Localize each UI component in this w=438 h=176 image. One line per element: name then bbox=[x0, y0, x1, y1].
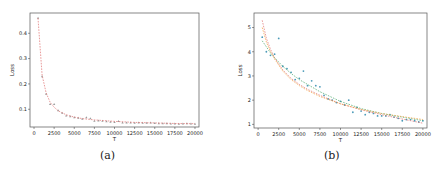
y-tick-label: 1 bbox=[248, 121, 251, 127]
chart-panel-a: 02500500075001000012500150001750020000T0… bbox=[9, 13, 203, 142]
y-axis-label: Loss bbox=[237, 64, 243, 76]
data-point bbox=[294, 79, 296, 81]
y-tick-label: 5 bbox=[248, 24, 251, 30]
plot-area bbox=[254, 13, 427, 128]
y-tick-label: 0.1 bbox=[19, 106, 27, 112]
data-point bbox=[303, 70, 305, 72]
data-point bbox=[348, 99, 350, 101]
x-tick-label: 10000 bbox=[107, 130, 123, 136]
x-tick-label: 2500 bbox=[48, 130, 61, 136]
x-tick-label: 17500 bbox=[167, 130, 183, 136]
y-tick-label: 0.3 bbox=[19, 55, 27, 61]
caption-a: (a) bbox=[100, 149, 115, 162]
data-point bbox=[278, 38, 280, 40]
x-tick-label: 20000 bbox=[415, 131, 431, 137]
y-tick-label: 0.4 bbox=[19, 30, 27, 36]
y-tick-label: 3 bbox=[248, 73, 251, 79]
chart-panel-b: 02500500075001000012500150001750020000T1… bbox=[237, 13, 431, 143]
y-axis: 0.10.20.30.4 bbox=[19, 30, 30, 112]
x-tick-label: 12500 bbox=[127, 130, 143, 136]
data-point bbox=[360, 110, 362, 112]
x-tick-label: 20000 bbox=[187, 130, 203, 136]
x-tick-label: 2500 bbox=[272, 131, 285, 137]
data-point bbox=[274, 53, 276, 55]
x-tick-label: 5000 bbox=[68, 130, 81, 136]
data-point bbox=[401, 120, 403, 122]
data-point bbox=[364, 114, 366, 116]
plot-area bbox=[30, 13, 199, 127]
x-tick-label: 0 bbox=[257, 131, 260, 137]
data-point bbox=[261, 36, 263, 38]
x-axis-label: T bbox=[112, 136, 117, 142]
x-axis-label: T bbox=[338, 137, 343, 143]
data-point bbox=[265, 51, 267, 53]
x-tick-label: 15000 bbox=[374, 131, 390, 137]
data-point bbox=[270, 54, 272, 56]
x-tick-label: 17500 bbox=[394, 131, 410, 137]
x-tick-label: 12500 bbox=[353, 131, 369, 137]
data-point bbox=[315, 85, 317, 87]
x-tick-label: 7500 bbox=[314, 131, 327, 137]
y-tick-label: 4 bbox=[248, 49, 251, 55]
x-tick-label: 10000 bbox=[333, 131, 349, 137]
x-tick-label: 7500 bbox=[88, 130, 101, 136]
data-point bbox=[323, 94, 325, 96]
x-tick-label: 5000 bbox=[293, 131, 306, 137]
y-tick-label: 0.2 bbox=[19, 81, 27, 87]
x-tick-label: 0 bbox=[32, 130, 35, 136]
y-axis: 12345 bbox=[248, 24, 254, 127]
figure-canvas: 02500500075001000012500150001750020000T0… bbox=[0, 0, 438, 176]
x-axis: 02500500075001000012500150001750020000 bbox=[257, 128, 431, 137]
data-point bbox=[377, 115, 379, 117]
data-point bbox=[352, 111, 354, 113]
caption-b: (b) bbox=[324, 149, 340, 162]
data-point bbox=[319, 86, 321, 88]
y-axis-label: Loss bbox=[9, 64, 15, 76]
x-tick-label: 15000 bbox=[147, 130, 163, 136]
y-tick-label: 2 bbox=[248, 97, 251, 103]
data-point bbox=[381, 115, 383, 117]
x-axis: 02500500075001000012500150001750020000 bbox=[32, 127, 202, 136]
data-point bbox=[311, 80, 313, 82]
